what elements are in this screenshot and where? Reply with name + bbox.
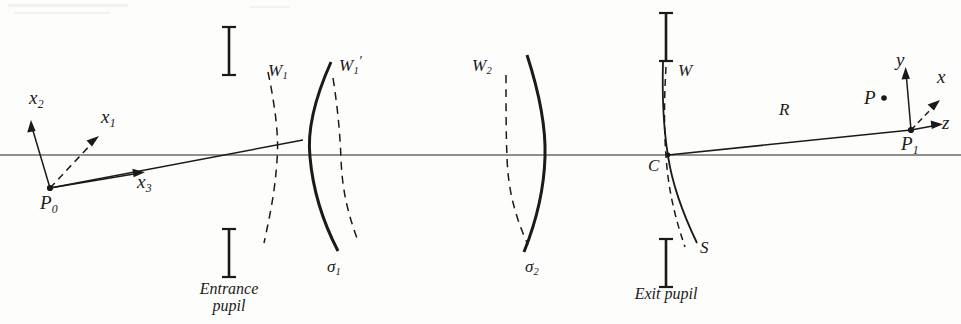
wavefront-W2 — [506, 75, 528, 245]
exit-pupil-upper-bar — [659, 12, 673, 62]
label-x-image: x — [937, 67, 945, 86]
label-W1-prime: W1′ — [339, 55, 362, 77]
figure-canvas — [0, 0, 961, 324]
label-sigma2: σ2 — [525, 258, 539, 278]
ray-R — [668, 130, 911, 155]
surface-sigma2 — [524, 55, 545, 252]
label-W2: W2 — [472, 57, 492, 77]
entrance-pupil-lower-bar — [222, 228, 236, 278]
caption-entrance-pupil: Entrance pupil — [169, 281, 289, 315]
point-P — [881, 95, 887, 101]
ray-object — [50, 140, 303, 188]
label-x1: x1 — [101, 107, 116, 130]
wavefront-W1 — [264, 72, 278, 243]
label-x2: x2 — [29, 88, 44, 111]
label-P: P — [864, 88, 876, 107]
label-S: S — [700, 239, 709, 256]
axis-z — [911, 121, 943, 130]
optics-figure: x2 x1 x3 P0 W1 W1′ W2 σ1 σ2 W C S R P P1 — [0, 0, 961, 324]
label-W: W — [678, 62, 692, 79]
axis-x2 — [27, 120, 50, 188]
label-x3: x3 — [137, 172, 152, 195]
entrance-pupil-upper-bar — [222, 26, 236, 76]
label-R: R — [779, 101, 789, 118]
label-W1: W1 — [268, 62, 288, 82]
label-y: y — [896, 50, 904, 69]
label-P0: P0 — [40, 193, 58, 216]
label-C: C — [648, 157, 659, 174]
label-P1: P1 — [901, 134, 919, 157]
label-z: z — [942, 113, 949, 132]
surface-sigma1 — [309, 62, 338, 251]
label-sigma1: σ1 — [327, 258, 341, 278]
caption-exit-pupil: Exit pupil — [606, 286, 726, 303]
exit-pupil-lower-bar — [659, 238, 673, 288]
wavefront-W1-prime — [333, 78, 358, 241]
axis-y — [902, 67, 912, 130]
